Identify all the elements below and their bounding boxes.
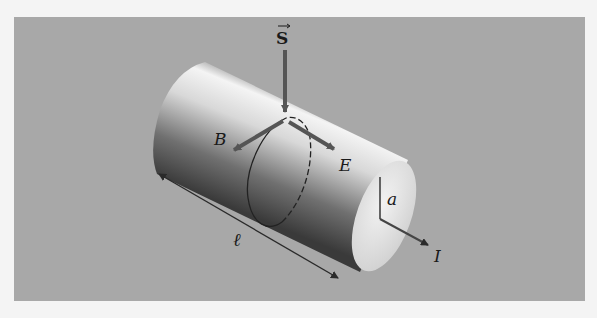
electric-field-label: E bbox=[338, 155, 352, 175]
current-label: I bbox=[433, 246, 441, 266]
poynting-label: S bbox=[276, 28, 288, 48]
magnetic-field-label: B bbox=[213, 129, 227, 149]
cylinder-diagram: S B E a I ℓ bbox=[0, 0, 597, 318]
radius-label: a bbox=[387, 189, 397, 209]
length-label: ℓ bbox=[233, 229, 241, 250]
